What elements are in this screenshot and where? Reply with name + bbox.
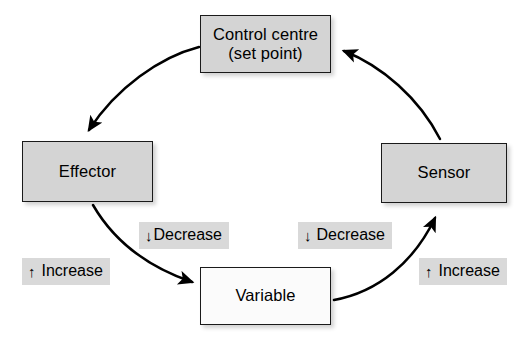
node-control-centre: Control centre (set point) [200,15,331,73]
node-variable: Variable [200,267,331,325]
down-arrow-icon: ↓ [304,228,312,243]
arrow-sensor-to-control-centre [344,51,440,139]
node-control-centre-label: Control centre (set point) [213,25,318,63]
edge-label-text: Increase [42,263,103,279]
node-effector: Effector [22,141,153,202]
node-effector-label: Effector [59,162,116,181]
edge-label-increase-effector-variable: ↑ Increase [22,258,110,285]
arrow-control-centre-to-effector [89,47,199,130]
edge-label-increase-variable-sensor: ↑ Increase [419,258,507,285]
down-arrow-icon: ↓ [145,228,153,243]
node-variable-label: Variable [235,286,295,305]
edge-label-decrease-variable-sensor: ↓ Decrease [298,222,392,249]
edge-label-text: Decrease [154,227,222,243]
node-sensor: Sensor [381,143,507,203]
edge-label-text: Decrease [317,227,385,243]
edge-label-decrease-effector-variable: ↓ Decrease [139,222,229,249]
up-arrow-icon: ↑ [425,264,433,279]
up-arrow-icon: ↑ [28,264,36,279]
edge-label-text: Increase [439,263,500,279]
node-sensor-label: Sensor [418,163,471,182]
homeostasis-cycle-diagram: Control centre (set point) Effector Sens… [0,0,529,342]
